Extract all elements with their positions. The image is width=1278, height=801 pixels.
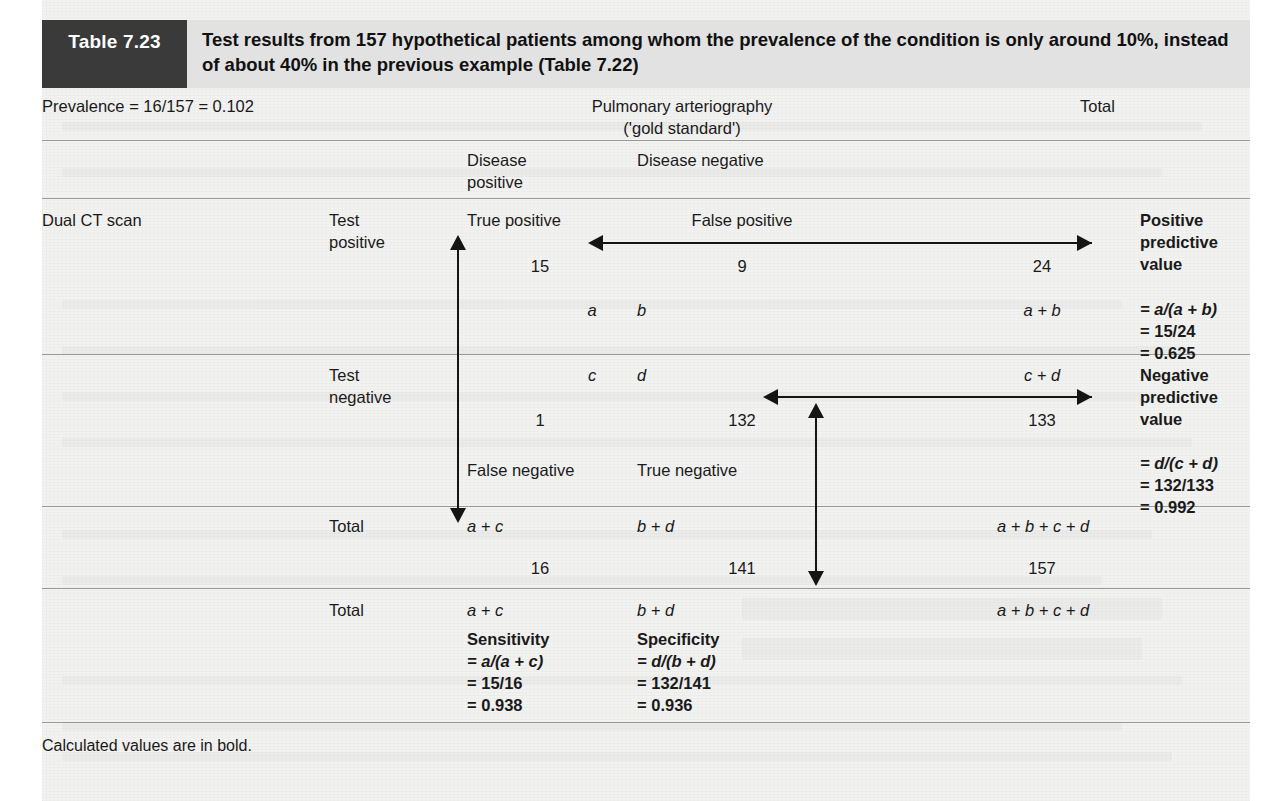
value-true-negative: 132	[728, 410, 756, 432]
label-false-positive: False positive	[692, 210, 793, 232]
value-true-positive: 15	[531, 256, 549, 278]
arrow-line-vertical-left	[457, 248, 459, 510]
symbol-grand-total-row1: a + b + c + d	[997, 516, 1089, 538]
symbol-b-plus-d-row1: b + d	[637, 516, 674, 538]
arrow-head-right-npv	[1077, 389, 1092, 405]
arrow-head-left-ppv	[588, 235, 603, 251]
prevalence-value: Prevalence = 16/157 = 0.102	[42, 96, 254, 118]
ppv-title: Positive predictive value	[1140, 210, 1218, 275]
table-number-badge: Table 7.23	[42, 20, 187, 88]
table-body: Prevalence = 16/157 = 0.102 Pulmonary ar…	[42, 88, 1250, 748]
symbol-a-plus-c-row1: a + c	[467, 516, 503, 538]
value-test-negative-total: 133	[1028, 410, 1056, 432]
column-header-disease-negative: Disease negative	[637, 150, 764, 172]
rule-below-test-negative	[42, 506, 1250, 507]
symbol-d: d	[637, 365, 646, 387]
sensitivity-title: Sensitivity	[467, 629, 550, 651]
value-test-positive-total: 24	[1033, 256, 1051, 278]
value-grand-total: 157	[1028, 558, 1056, 580]
symbol-c-plus-d: c + d	[1024, 365, 1060, 387]
row-label-dual-ct-scan: Dual CT scan	[42, 210, 142, 232]
label-true-negative: True negative	[637, 460, 737, 482]
label-false-negative: False negative	[467, 460, 574, 482]
specificity-result: = 0.936	[637, 695, 693, 717]
specificity-title: Specificity	[637, 629, 720, 651]
total-column-heading: Total	[1080, 96, 1115, 118]
arrow-line-vertical-middle	[815, 416, 817, 573]
arrow-head-left-npv	[763, 389, 778, 405]
ppv-formula: = a/(a + b)	[1140, 299, 1217, 321]
row-label-test-positive: Test positive	[329, 210, 385, 254]
row-label-test-negative: Test negative	[329, 365, 391, 409]
symbol-b: b	[637, 300, 646, 322]
value-false-negative: 1	[535, 410, 544, 432]
arrow-head-up-left	[450, 235, 466, 250]
npv-formula: = d/(c + d)	[1140, 453, 1218, 475]
npv-substitution: = 132/133	[1140, 475, 1214, 497]
symbol-a-plus-c-row2: a + c	[467, 600, 503, 622]
npv-title: Negative predictive value	[1140, 365, 1218, 430]
row-label-total-1: Total	[329, 516, 364, 538]
rule-below-heading	[42, 140, 1250, 141]
npv-result: = 0.992	[1140, 497, 1196, 519]
rule-below-total-1	[42, 588, 1250, 589]
specificity-substitution: = 132/141	[637, 673, 711, 695]
value-disease-negative-total: 141	[728, 558, 756, 580]
ppv-result: = 0.625	[1140, 343, 1196, 365]
value-false-positive: 9	[737, 256, 746, 278]
rule-below-col-headers	[42, 198, 1250, 199]
symbol-a: a	[587, 300, 596, 322]
symbol-a-plus-b: a + b	[1023, 300, 1060, 322]
sensitivity-formula: = a/(a + c)	[467, 651, 543, 673]
symbol-c: c	[588, 365, 596, 387]
value-disease-positive-total: 16	[531, 558, 549, 580]
arrow-head-down-middle	[808, 571, 824, 586]
sensitivity-result: = 0.938	[467, 695, 523, 717]
arrow-line-horizontal-ppv	[602, 242, 1092, 244]
sensitivity-substitution: = 15/16	[467, 673, 523, 695]
rule-below-test-positive	[42, 354, 1250, 355]
footnote: Calculated values are in bold.	[42, 737, 252, 755]
arrow-head-up-middle	[808, 403, 824, 418]
gold-standard-heading: Pulmonary arteriography ('gold standard'…	[592, 96, 773, 140]
table-title: Test results from 157 hypothetical patie…	[202, 28, 1237, 78]
symbol-b-plus-d-row2: b + d	[637, 600, 674, 622]
arrow-head-down-left	[450, 508, 466, 523]
row-label-total-2: Total	[329, 600, 364, 622]
label-true-positive: True positive	[467, 210, 561, 232]
specificity-formula: = d/(b + d)	[637, 651, 716, 673]
arrow-line-horizontal-npv	[777, 396, 1092, 398]
table-header: Table 7.23 Test results from 157 hypothe…	[42, 20, 1250, 88]
rule-above-footnote	[42, 722, 1250, 723]
arrow-head-right-ppv	[1077, 235, 1092, 251]
symbol-grand-total-row2: a + b + c + d	[997, 600, 1089, 622]
column-header-disease-positive: Disease positive	[467, 150, 527, 194]
ppv-substitution: = 15/24	[1140, 321, 1196, 343]
